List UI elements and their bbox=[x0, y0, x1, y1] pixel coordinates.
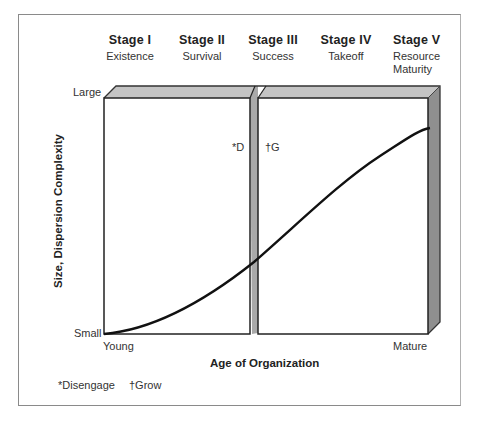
left-box-top-face bbox=[104, 86, 255, 98]
y-axis-title: Size, Dispersion Complexity bbox=[52, 111, 64, 311]
x-axis-title: Age of Organization bbox=[210, 357, 319, 369]
x-label-young: Young bbox=[103, 340, 134, 352]
footnote-grow: †Grow bbox=[129, 379, 161, 391]
right-box-side-face bbox=[428, 86, 440, 334]
right-box-top-face bbox=[258, 86, 440, 98]
x-label-mature: Mature bbox=[393, 340, 427, 352]
disengage-marker: *D bbox=[232, 141, 244, 153]
grow-marker: †G bbox=[265, 141, 280, 153]
y-label-large: Large bbox=[73, 86, 101, 98]
y-label-small: Small bbox=[74, 327, 102, 339]
left-box bbox=[104, 98, 250, 334]
footnote-disengage: *Disengage bbox=[58, 379, 115, 391]
growth-curve bbox=[104, 128, 430, 334]
divider-shade bbox=[250, 86, 258, 334]
right-box bbox=[258, 98, 428, 334]
